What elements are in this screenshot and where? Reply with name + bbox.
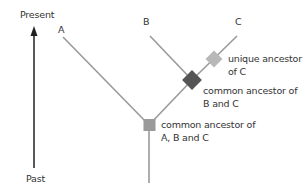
branch-b xyxy=(150,36,192,80)
common-ancestor-abc-annotation: common ancestor of A, B and C xyxy=(161,119,255,144)
common-ancestor-bc-annotation: common ancestor of B and C xyxy=(203,85,297,110)
taxon-a-label: A xyxy=(58,24,64,36)
node-common-ancestor-abc xyxy=(144,119,156,131)
taxon-c-label: C xyxy=(235,16,241,28)
taxon-b-label: B xyxy=(143,16,149,28)
present-label: Present xyxy=(20,9,54,21)
branch-a xyxy=(63,37,149,125)
time-axis-arrow xyxy=(31,26,38,168)
past-label: Past xyxy=(26,173,45,185)
unique-ancestor-c-annotation: unique ancestor of C xyxy=(228,53,302,78)
